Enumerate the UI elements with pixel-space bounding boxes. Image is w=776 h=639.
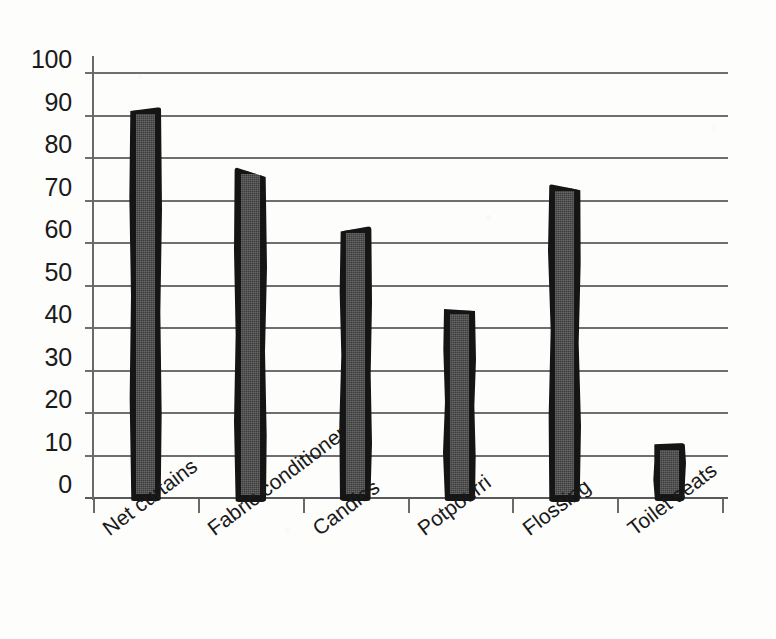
y-tick-label-80: 80 bbox=[0, 132, 72, 157]
gridline-60 bbox=[85, 242, 728, 244]
bar-fabric-conditioner bbox=[234, 167, 267, 502]
gridline-90 bbox=[85, 115, 728, 117]
x-tick-6 bbox=[722, 499, 724, 513]
gridline-80 bbox=[85, 157, 728, 159]
y-tick-label-60: 60 bbox=[0, 217, 72, 242]
x-tick-4 bbox=[512, 499, 514, 513]
y-tick-label-20: 20 bbox=[0, 387, 72, 412]
x-tick-3 bbox=[408, 499, 410, 513]
gridline-20 bbox=[85, 412, 728, 414]
gridline-40 bbox=[85, 327, 728, 329]
x-tick-0 bbox=[93, 499, 95, 513]
y-tick-label-40: 40 bbox=[0, 302, 72, 327]
gridline-0 bbox=[85, 497, 728, 499]
bar-net-curtains bbox=[129, 107, 162, 501]
x-tick-1 bbox=[198, 499, 200, 513]
gridline-100 bbox=[85, 72, 728, 74]
y-tick-label-70: 70 bbox=[0, 175, 72, 200]
gridline-50 bbox=[85, 285, 728, 287]
bar-flossing bbox=[548, 184, 581, 502]
x-tick-5 bbox=[617, 499, 619, 513]
y-tick-label-50: 50 bbox=[0, 260, 72, 285]
bar-candles bbox=[339, 226, 372, 501]
y-tick-label-30: 30 bbox=[0, 345, 72, 370]
bar-chart: 1009080706050403020100 Net curtainsFabri… bbox=[0, 0, 776, 639]
y-tick-label-100: 100 bbox=[0, 47, 72, 72]
y-tick-label-10: 10 bbox=[0, 430, 72, 455]
gridline-30 bbox=[85, 370, 728, 372]
bar-potpourri bbox=[443, 307, 476, 501]
chart-page: 1009080706050403020100 Net curtainsFabri… bbox=[0, 0, 776, 639]
gridline-70 bbox=[85, 200, 728, 202]
gridline-10 bbox=[85, 455, 728, 457]
y-tick-label-0: 0 bbox=[0, 472, 72, 497]
y-tick-label-90: 90 bbox=[0, 90, 72, 115]
x-tick-2 bbox=[303, 499, 305, 513]
y-axis-line bbox=[92, 56, 94, 500]
